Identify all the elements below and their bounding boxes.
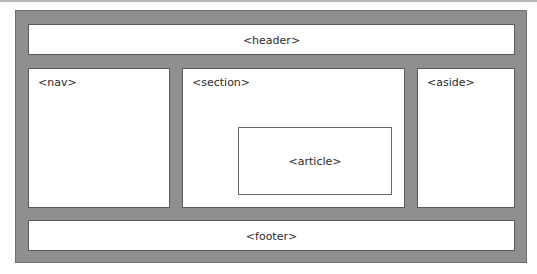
- top-divider: [0, 0, 537, 2]
- aside-box: <aside>: [417, 68, 515, 208]
- nav-label: <nav>: [38, 76, 77, 89]
- footer-label: <footer>: [29, 229, 514, 242]
- nav-box: <nav>: [28, 68, 170, 208]
- section-label: <section>: [192, 76, 250, 89]
- aside-label: <aside>: [427, 76, 475, 89]
- header-box: <header>: [28, 24, 515, 55]
- header-label: <header>: [29, 33, 514, 46]
- article-label: <article>: [239, 155, 391, 168]
- section-box: <section> <article>: [182, 68, 405, 208]
- article-box: <article>: [238, 127, 392, 195]
- footer-box: <footer>: [28, 220, 515, 251]
